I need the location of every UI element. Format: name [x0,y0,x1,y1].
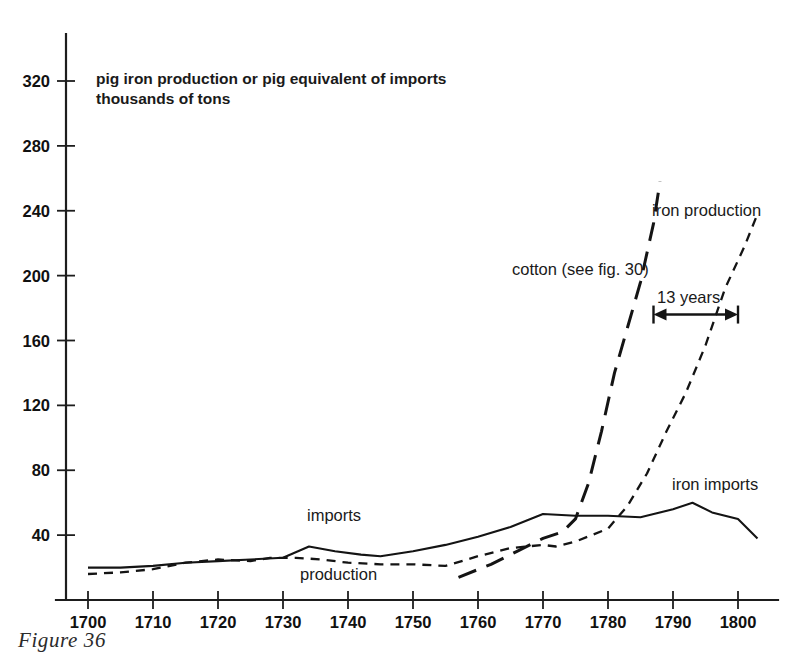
series-label-production-inline: production [300,565,377,583]
y-axis-tick-label: 320 [22,72,50,90]
x-axis-tick-label: 1720 [200,613,237,631]
x-axis-tick-label: 1730 [265,613,302,631]
x-axis-tick-label: 1750 [395,613,432,631]
y-axis-tick-label: 160 [22,332,50,350]
x-axis-tick-label: 1760 [460,613,497,631]
y-axis-tick-label: 40 [32,526,50,544]
y-axis-tick-label: 280 [22,137,50,155]
chart-axes [56,34,778,600]
line-chart: 4080120160200240280320 17001710172017301… [0,0,795,660]
figure-caption: Figure 36 [18,628,106,653]
y-axis-tick-label: 200 [22,267,50,285]
series-line-iron-production [88,214,758,574]
data-series-group [88,182,758,578]
x-axis-ticks: 1700171017201730174017501760177017801790… [70,591,757,631]
series-label-iron-production: iron production [652,201,761,219]
x-axis-tick-label: 1800 [720,613,757,631]
x-axis-tick-label: 1780 [590,613,627,631]
x-axis-tick-label: 1710 [135,613,172,631]
x-axis-tick-label: 1790 [655,613,692,631]
x-axis-tick-label: 1740 [330,613,367,631]
series-label-imports-inline: imports [307,506,361,524]
series-label-iron-imports: iron imports [672,475,758,493]
chart-note-line-1: pig iron production or pig equivalent of… [96,70,446,87]
x-axis-tick-label: 1770 [525,613,562,631]
y-axis-tick-label: 240 [22,202,50,220]
series-line-cotton-see-fig- [459,182,661,578]
figure-container: 4080120160200240280320 17001710172017301… [0,0,795,660]
series-label-cotton: cotton (see fig. 30) [512,260,649,278]
annotation-arrowhead-right [725,309,738,321]
series-line-iron-imports [88,503,758,568]
chart-note-line-2: thousands of tons [96,90,230,107]
y-axis-tick-label: 120 [22,396,50,414]
y-axis-tick-label: 80 [32,461,50,479]
y-axis-ticks: 4080120160200240280320 [22,72,75,544]
annotation-label-13-years: 13 years [657,288,720,306]
annotation-arrowhead-left [654,309,667,321]
chart-annotations [654,306,739,324]
